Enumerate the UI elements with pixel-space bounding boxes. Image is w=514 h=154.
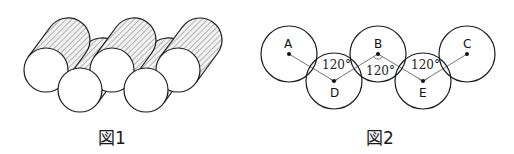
label-a: A xyxy=(284,37,293,51)
angle-label-b: 120° xyxy=(366,64,395,78)
angle-label-d: 120° xyxy=(322,58,351,72)
label-c: C xyxy=(463,37,471,51)
point-a xyxy=(287,52,291,56)
diagram-canvas: A D B E C 120° 120° 120° xyxy=(0,0,514,154)
point-d xyxy=(332,79,336,83)
point-b xyxy=(376,52,380,56)
figure-2-caption: 図2 xyxy=(366,124,394,149)
figure-1-caption: 図1 xyxy=(98,124,126,149)
cylinder-4-face xyxy=(124,68,168,112)
figure-2-circles: A D B E C 120° 120° 120° xyxy=(261,26,495,109)
label-d: D xyxy=(330,86,339,100)
figure-1-cylinders xyxy=(24,18,222,112)
angle-label-e: 120° xyxy=(411,58,440,72)
label-b: B xyxy=(374,37,382,51)
point-e xyxy=(421,79,425,83)
cylinder-2-face xyxy=(58,68,102,112)
label-e: E xyxy=(419,86,427,100)
point-c xyxy=(465,52,469,56)
